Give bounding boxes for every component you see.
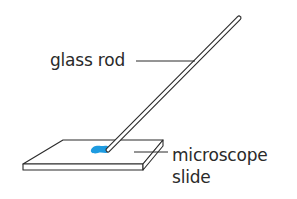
microscope-slide: [23, 140, 163, 170]
glass-rod-label: glass rod: [50, 52, 125, 69]
microscope-slide-label: microscope slide: [172, 144, 268, 188]
microscope-slide-label-line2: slide: [172, 166, 268, 188]
microscope-slide-label-line1: microscope: [172, 144, 268, 166]
glass-rod: [108, 18, 239, 150]
diagram-canvas: glass rod microscope slide: [0, 0, 297, 199]
